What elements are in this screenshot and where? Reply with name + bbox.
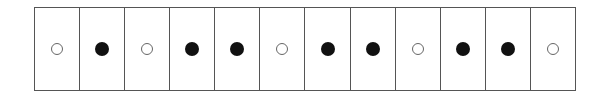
open-circle-icon — [51, 43, 63, 55]
open-circle-icon — [141, 43, 153, 55]
filled-circle-icon — [501, 42, 515, 56]
filled-circle-icon — [456, 42, 470, 56]
cell-strip — [34, 7, 576, 91]
cell-7 — [305, 8, 350, 90]
filled-circle-icon — [230, 42, 244, 56]
cell-1 — [35, 8, 80, 90]
cell-9 — [396, 8, 441, 90]
cell-6 — [260, 8, 305, 90]
open-circle-icon — [547, 43, 559, 55]
filled-circle-icon — [321, 42, 335, 56]
filled-circle-icon — [366, 42, 380, 56]
cell-4 — [170, 8, 215, 90]
cell-8 — [351, 8, 396, 90]
filled-circle-icon — [95, 42, 109, 56]
cell-3 — [125, 8, 170, 90]
open-circle-icon — [276, 43, 288, 55]
cell-12 — [531, 8, 575, 90]
open-circle-icon — [412, 43, 424, 55]
cell-11 — [486, 8, 531, 90]
cell-5 — [215, 8, 260, 90]
cell-10 — [441, 8, 486, 90]
filled-circle-icon — [185, 42, 199, 56]
cell-2 — [80, 8, 125, 90]
